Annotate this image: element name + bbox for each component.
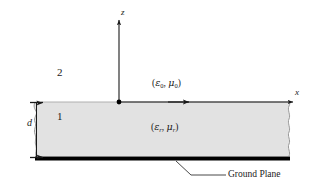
diagram-canvas: [0, 0, 312, 193]
lower-mu-subscript: r: [173, 126, 176, 133]
z-axis-label: z: [121, 8, 125, 17]
region-1-label: 1: [57, 111, 63, 122]
upper-mu-subscript: 0: [174, 82, 177, 89]
lower-mu-symbol: μ: [167, 121, 173, 132]
ground-plane-leader-line: [176, 161, 226, 175]
upper-epsilon-subscript: 0: [160, 82, 163, 89]
origin-dot: [117, 100, 122, 105]
region-2-label: 2: [57, 67, 63, 78]
lower-epsilon-subscript: r: [159, 126, 162, 133]
ground-plane-label: Ground Plane: [228, 170, 281, 180]
lower-material-parameters: (εr, μr): [151, 122, 178, 133]
thickness-label: d: [27, 118, 32, 128]
lower-paren-close: ): [175, 122, 178, 132]
upper-material-parameters: (ε0, μ0): [152, 78, 181, 89]
x-axis-label: x: [295, 88, 299, 97]
upper-paren-close: ): [178, 78, 181, 88]
